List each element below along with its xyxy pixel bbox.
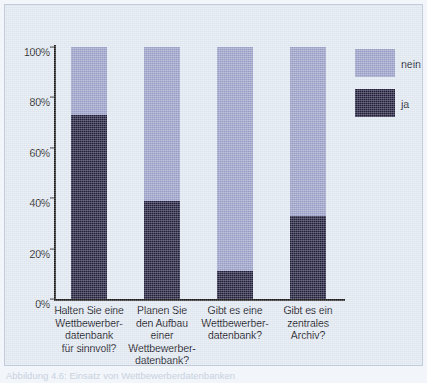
bar-segment-nein (217, 47, 253, 271)
y-tick-label-80: 80% (30, 97, 50, 108)
bar-gibt-es-ein-zentrales-archiv (290, 47, 326, 299)
legend-item-nein: nein (355, 49, 423, 77)
y-tick-label-60: 60% (30, 148, 50, 159)
x-label-3: Gibt es einzentralesArchiv? (260, 304, 356, 342)
x-label-line: Wettbewerber- (128, 342, 195, 354)
x-label-line: Planen Sie (137, 304, 187, 316)
legend-item-ja: ja (355, 89, 423, 117)
bar-segment-nein (144, 47, 180, 201)
x-label-line: den Aufbau (136, 317, 188, 329)
x-label-line: datenbank (65, 329, 113, 341)
y-tick-label-40: 40% (30, 198, 50, 209)
x-label-line: zentrales (287, 317, 329, 329)
y-tick-mark (50, 147, 54, 148)
legend-label-ja: ja (401, 98, 409, 110)
bar-planen-sie-den-aufbau-einer-wettbewerberdatenbank (144, 47, 180, 299)
bar-segment-ja (71, 115, 107, 299)
x-label-line: datenbank? (208, 329, 262, 341)
legend-swatch-ja (355, 89, 395, 117)
y-tick-mark (50, 248, 54, 249)
y-axis-ticks: 100% 80% 60% 40% 20% 0% (5, 47, 50, 299)
x-axis-line (54, 299, 345, 301)
bar-gibt-es-eine-wettbewerberdatenbank (217, 47, 253, 299)
x-label-line: Wettbewerber- (55, 317, 122, 329)
bar-segment-nein (290, 47, 326, 216)
bar-segment-ja (217, 271, 253, 299)
y-tick-mark (50, 299, 54, 300)
figure-caption: Abbildung 4.6: Einsatz von Wettbewerberd… (6, 369, 421, 381)
x-label-line: für sinnvoll? (62, 342, 117, 354)
bar-segment-ja (290, 216, 326, 299)
chart-frame: 100% 80% 60% 40% 20% 0% (4, 4, 423, 366)
bar-halten-sie-eine-wettbewerberdatenbank-fuer-sinnvoll (71, 47, 107, 299)
y-tick-label-20: 20% (30, 249, 50, 260)
chart-legend: nein ja (355, 49, 423, 129)
x-label-line: Gibt es eine (208, 304, 263, 316)
x-label-line: Gibt es ein (283, 304, 332, 316)
y-tick-mark (50, 47, 54, 48)
bar-segment-nein (71, 47, 107, 115)
legend-swatch-nein (355, 49, 395, 77)
y-tick-mark (50, 97, 54, 98)
plot-area (55, 47, 333, 299)
legend-label-nein: nein (401, 58, 421, 70)
bar-segment-ja (144, 201, 180, 299)
x-axis-labels: Halten Sie eineWettbewerber-datenbankfür… (55, 304, 345, 366)
y-tick-label-100: 100% (24, 47, 50, 58)
x-label-line: datenbank? (135, 354, 189, 366)
x-label-line: einer (151, 329, 174, 341)
chart-figure: 100% 80% 60% 40% 20% 0% (0, 0, 427, 383)
x-label-line: Wettbewerber- (201, 317, 268, 329)
y-tick-mark (50, 198, 54, 199)
x-label-line: Archiv? (291, 329, 325, 341)
